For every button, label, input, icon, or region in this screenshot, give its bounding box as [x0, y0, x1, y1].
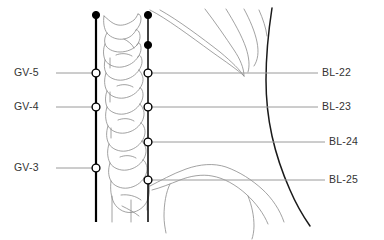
- bl-22-point[interactable]: [144, 69, 152, 77]
- label-bl-23: BL-23: [322, 100, 351, 112]
- diagram-canvas: GV-5 GV-4 GV-3 BL-22 BL-23 BL-24 BL-25: [0, 0, 384, 240]
- bl-top-marker: [144, 11, 151, 18]
- gv-5-point[interactable]: [92, 69, 100, 77]
- label-gv-3: GV-3: [14, 161, 39, 173]
- bl-25-point[interactable]: [144, 176, 152, 184]
- lower-rib-cage-outline: [150, 9, 267, 76]
- iliac-crest-outline: [147, 165, 284, 239]
- label-bl-25: BL-25: [329, 173, 358, 185]
- label-gv-4: GV-4: [14, 100, 39, 112]
- bl-24-point[interactable]: [144, 138, 152, 146]
- label-bl-22: BL-22: [322, 66, 351, 78]
- left-labels-group: GV-5 GV-4 GV-3: [14, 66, 39, 173]
- bl-second-marker: [144, 41, 151, 48]
- gv-4-point[interactable]: [92, 103, 100, 111]
- bl-23-point[interactable]: [144, 103, 152, 111]
- acupuncture-point-diagram: GV-5 GV-4 GV-3 BL-22 BL-23 BL-24 BL-25: [0, 0, 384, 240]
- lumbar-vertebrae-group: [104, 14, 150, 222]
- label-bl-24: BL-24: [329, 135, 358, 147]
- right-labels-group: BL-22 BL-23 BL-24 BL-25: [322, 66, 358, 185]
- posterior-body-contour: [266, 8, 310, 226]
- gv-top-marker: [92, 11, 99, 18]
- gv-3-point[interactable]: [92, 164, 100, 172]
- label-gv-5: GV-5: [14, 66, 39, 78]
